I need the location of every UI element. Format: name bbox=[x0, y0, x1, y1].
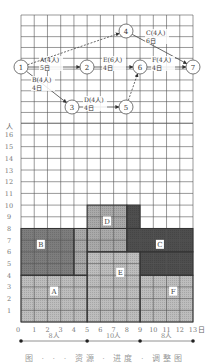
activity-duration: 4日 bbox=[84, 104, 94, 112]
block-label-d: D bbox=[104, 218, 110, 226]
x-tick: 8 bbox=[125, 326, 129, 334]
block-label-b: B bbox=[38, 241, 43, 249]
y-tick: 8 bbox=[7, 225, 11, 233]
profile-point bbox=[19, 339, 23, 343]
activity-label: E(6人) bbox=[103, 56, 122, 63]
profile-label: 10人 bbox=[106, 332, 121, 340]
activity-label: F(4人) bbox=[152, 56, 171, 63]
activity-label: D(4人) bbox=[84, 96, 104, 103]
y-tick: 9 bbox=[7, 213, 11, 221]
block-label-e: E bbox=[118, 269, 123, 277]
y-tick: 11 bbox=[5, 190, 13, 198]
x-tick: 10 bbox=[149, 326, 157, 334]
block-label-f: F bbox=[171, 288, 176, 296]
profile-point bbox=[85, 339, 89, 343]
node-label: 1 bbox=[19, 64, 23, 72]
y-tick: 2 bbox=[7, 295, 11, 303]
x-tick: 13 bbox=[189, 326, 197, 334]
block-label-a: A bbox=[51, 288, 58, 296]
x-tick: 0 bbox=[16, 326, 20, 334]
x-tick: 1 bbox=[32, 326, 36, 334]
activity-duration: 4日 bbox=[103, 64, 113, 72]
y-tick: 13 bbox=[5, 167, 13, 175]
y-tick: 1 bbox=[7, 307, 11, 315]
activity-duration: 6日 bbox=[146, 37, 156, 45]
activity-duration: 5日 bbox=[40, 64, 50, 72]
node-label: 6 bbox=[138, 64, 143, 72]
profile-point bbox=[138, 339, 142, 343]
y-tick: 14 bbox=[5, 155, 13, 163]
network-edges: A(4人)5日B(4人)4日C(4人)6日D(4人)4日E(6人)4日F(4人)… bbox=[27, 29, 187, 112]
x-axis-label: 日 bbox=[198, 326, 205, 334]
y-tick: 4 bbox=[7, 272, 11, 280]
x-tick: 4 bbox=[72, 326, 76, 334]
y-tick: 12 bbox=[5, 178, 13, 186]
y-tick: 16 bbox=[5, 131, 13, 139]
x-tick: 5 bbox=[85, 326, 89, 334]
node-label: 3 bbox=[70, 104, 74, 112]
y-tick: 15 bbox=[5, 143, 13, 151]
activity-duration: 4日 bbox=[152, 64, 162, 72]
block-label-c: C bbox=[157, 241, 162, 249]
profile-label: 8人 bbox=[49, 332, 60, 340]
y-tick: 3 bbox=[7, 283, 11, 291]
y-tick: 10 bbox=[5, 202, 13, 210]
activity-label: C(4人) bbox=[146, 29, 166, 36]
y-tick: 5 bbox=[7, 260, 11, 268]
activity-duration: 4日 bbox=[32, 84, 42, 92]
x-tick: 12 bbox=[176, 326, 184, 334]
activity-5-6 bbox=[128, 74, 137, 101]
figure-caption: 图 · · · 资源 · 进度 · 调整图 bbox=[0, 352, 210, 363]
y-tick: 7 bbox=[7, 237, 11, 245]
node-label: 7 bbox=[191, 64, 195, 72]
profile-label: 8人 bbox=[161, 332, 172, 340]
activity-label: B(4人) bbox=[32, 76, 51, 83]
node-label: 4 bbox=[124, 28, 129, 36]
y-axis-label: 人 bbox=[6, 123, 13, 131]
profile-point bbox=[191, 339, 195, 343]
x-tick: 6 bbox=[98, 326, 102, 334]
node-label: 5 bbox=[124, 104, 128, 112]
x-tick: 9 bbox=[138, 326, 142, 334]
node-label: 2 bbox=[85, 64, 89, 72]
y-tick: 6 bbox=[7, 248, 11, 256]
